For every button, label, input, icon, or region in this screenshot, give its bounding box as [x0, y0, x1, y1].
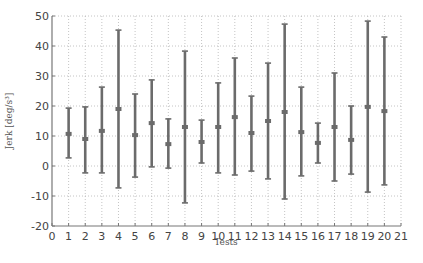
x-tick-label: 8 [181, 230, 188, 243]
y-tick-label: 20 [35, 100, 49, 113]
x-tick-label: 21 [394, 230, 408, 243]
mean-marker [332, 125, 338, 129]
error-bar-test-13 [265, 63, 271, 179]
mean-marker [132, 133, 138, 137]
x-tick-label: 15 [294, 230, 308, 243]
error-bar-test-8 [182, 51, 188, 203]
x-tick-label: 9 [198, 230, 205, 243]
error-bar-test-16 [315, 123, 321, 163]
mean-marker [215, 125, 221, 129]
x-tick-label: 18 [344, 230, 358, 243]
mean-marker [182, 125, 188, 129]
error-bar-test-4 [115, 30, 121, 188]
x-tick-label: 6 [148, 230, 155, 243]
error-bar-test-17 [332, 73, 338, 181]
mean-marker [232, 115, 238, 119]
y-tick-label: 30 [35, 70, 49, 83]
x-axis-title: Tests [214, 237, 238, 247]
x-tick-label: 17 [328, 230, 342, 243]
y-tick-label: 0 [42, 160, 49, 173]
error-bar-test-15 [298, 87, 304, 176]
error-bar-test-10 [215, 83, 221, 173]
grid-lines [52, 16, 401, 226]
x-tick-label: 4 [115, 230, 122, 243]
x-tick-label: 13 [261, 230, 275, 243]
error-bar-test-5 [132, 94, 138, 177]
y-tick-label: -20 [31, 220, 49, 233]
error-bar-test-19 [365, 21, 371, 192]
error-bar-test-1 [66, 108, 72, 158]
mean-marker [298, 130, 304, 134]
y-tick-label: 50 [35, 10, 49, 23]
errorbar-chart: 0123456789101112131415161718192021 -20-1… [0, 0, 423, 263]
x-tick-label: 3 [98, 230, 105, 243]
error-bar-test-6 [149, 80, 155, 167]
error-bar-test-7 [165, 119, 171, 168]
mean-marker [248, 131, 254, 135]
error-bar-test-18 [348, 106, 354, 174]
error-bar-test-14 [282, 24, 288, 199]
y-tick-label: 10 [35, 130, 49, 143]
x-tick-label: 16 [311, 230, 325, 243]
y-tick-labels: -20-1001020304050 [31, 10, 49, 233]
x-tick-label: 12 [244, 230, 258, 243]
mean-marker [115, 107, 121, 111]
mean-marker [381, 109, 387, 113]
mean-marker [365, 105, 371, 109]
error-bar-test-12 [248, 96, 254, 171]
mean-marker [199, 140, 205, 144]
y-axis-title: Jerk [deg/s³] [4, 93, 14, 151]
y-tick-label: 40 [35, 40, 49, 53]
mean-marker [66, 132, 72, 136]
x-tick-label: 0 [49, 230, 56, 243]
axes [52, 16, 401, 226]
y-tick-label: -10 [31, 190, 49, 203]
mean-marker [315, 141, 321, 145]
error-bar-test-9 [199, 120, 205, 163]
error-bar-test-20 [381, 37, 387, 185]
x-tick-label: 1 [65, 230, 72, 243]
mean-marker [149, 121, 155, 125]
error-bar-test-3 [99, 87, 105, 173]
x-tick-label: 14 [278, 230, 292, 243]
error-bar-test-2 [82, 107, 88, 173]
x-tick-label: 5 [132, 230, 139, 243]
x-tick-label: 19 [361, 230, 375, 243]
x-tick-label: 20 [377, 230, 391, 243]
mean-marker [348, 138, 354, 142]
mean-marker [99, 129, 105, 133]
x-tick-label: 2 [82, 230, 89, 243]
error-bar-test-11 [232, 58, 238, 175]
error-bars [66, 21, 388, 203]
mean-marker [265, 119, 271, 123]
x-tick-label: 7 [165, 230, 172, 243]
mean-marker [282, 110, 288, 114]
mean-marker [82, 137, 88, 141]
mean-marker [165, 142, 171, 146]
